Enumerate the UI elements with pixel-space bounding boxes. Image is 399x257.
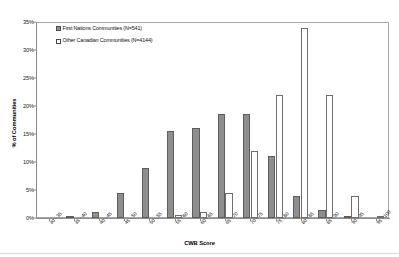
bar-other-canadian	[326, 95, 333, 218]
y-axis-tick-label: 0%	[0, 215, 34, 221]
y-axis-title: % of Communities	[11, 83, 17, 163]
bar-other-canadian	[175, 215, 182, 218]
legend-item-label: First Nations Communities (N=541)	[63, 26, 142, 31]
bar-other-canadian	[276, 95, 283, 218]
bar-other-canadian	[377, 216, 384, 218]
bar-other-canadian	[351, 196, 358, 218]
chart-figure: 0%5%10%15%20%25%30%35%30 - 3535 - 4040 -…	[0, 0, 399, 257]
y-axis-tick-label: 30%	[0, 47, 34, 53]
legend-swatch-icon	[56, 39, 61, 44]
legend-item: Other Canadian Communities (N=4144)	[56, 38, 152, 43]
bar-first-nations	[318, 210, 325, 218]
bar-first-nations	[117, 193, 124, 218]
bar-other-canadian	[200, 212, 207, 218]
bar-first-nations	[293, 196, 300, 218]
bar-group	[36, 22, 389, 218]
bar-first-nations	[167, 131, 174, 218]
legend-item-label: Other Canadian Communities (N=4144)	[63, 38, 153, 43]
y-axis-tick-label: 25%	[0, 75, 34, 81]
bar-other-canadian	[251, 151, 258, 218]
bar-first-nations	[142, 168, 149, 218]
y-axis-tick-label: 20%	[0, 103, 34, 109]
bar-first-nations	[344, 216, 351, 218]
chart-legend: First Nations Communities (N=541)Other C…	[56, 26, 152, 51]
bar-first-nations	[66, 216, 73, 218]
y-axis-tick-label: 5%	[0, 187, 34, 193]
y-axis-tick-label: 10%	[0, 159, 34, 165]
legend-item: First Nations Communities (N=541)	[56, 26, 152, 31]
y-axis-tick-label: 15%	[0, 131, 34, 137]
bar-first-nations	[268, 156, 275, 218]
bar-first-nations	[243, 114, 250, 218]
scan-edge-line	[0, 253, 399, 254]
bar-first-nations	[92, 212, 99, 218]
x-axis-title: CWB Score	[0, 240, 399, 246]
bar-other-canadian	[225, 193, 232, 218]
legend-swatch-icon	[56, 26, 61, 31]
bar-first-nations	[192, 128, 199, 218]
bar-first-nations	[218, 114, 225, 218]
y-axis-tick-label: 35%	[0, 19, 34, 25]
bar-other-canadian	[301, 28, 308, 218]
